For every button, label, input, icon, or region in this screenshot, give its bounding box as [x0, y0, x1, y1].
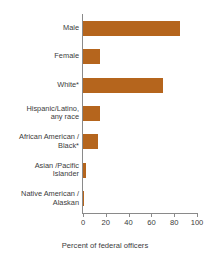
category-label: Hispanic/Latino, any race [2, 105, 79, 122]
bar [83, 191, 84, 206]
x-tick-label: 40 [117, 218, 141, 227]
bar-row [83, 128, 197, 156]
bar [83, 49, 100, 64]
category-label: White* [2, 81, 79, 90]
x-axis-line [82, 213, 198, 214]
x-tick-label: 20 [94, 218, 118, 227]
bar [83, 21, 180, 36]
bar-row [83, 99, 197, 127]
x-tick-label: 60 [139, 218, 163, 227]
category-label: Native American / Alaskan [2, 190, 79, 207]
category-label: African American / Black* [2, 133, 79, 150]
bar-chart-figure: MaleFemaleWhite*Hispanic/Latino, any rac… [0, 0, 210, 264]
bar [83, 106, 100, 121]
category-label: Male [2, 24, 79, 33]
category-label: Asian /Pacific Islander [2, 162, 79, 179]
plot-area [83, 14, 197, 213]
x-tick-mark [129, 213, 130, 217]
x-tick-mark [174, 213, 175, 217]
bar-row [83, 156, 197, 184]
x-tick-mark [151, 213, 152, 217]
bar [83, 163, 86, 178]
x-tick-mark [83, 213, 84, 217]
x-tick-label: 80 [162, 218, 186, 227]
x-tick-label: 100 [185, 218, 209, 227]
bar-row [83, 185, 197, 213]
x-tick-mark [197, 213, 198, 217]
bar [83, 78, 163, 93]
x-tick-label: 0 [71, 218, 95, 227]
bar-row [83, 42, 197, 70]
bar-row [83, 14, 197, 42]
x-axis-title: Percent of federal officers [0, 241, 210, 250]
x-tick-mark [106, 213, 107, 217]
category-label: Female [2, 52, 79, 61]
bar [83, 134, 98, 149]
bar-row [83, 71, 197, 99]
